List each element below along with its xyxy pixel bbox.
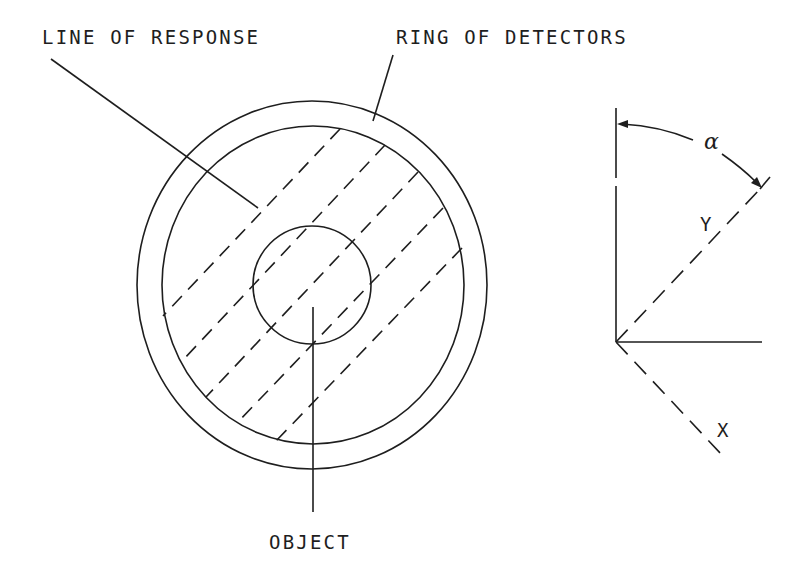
line-of-response-4 [237,208,443,423]
line-of-response-2 [183,145,385,360]
object-label: OBJECT [269,531,351,553]
ring-of-detectors-label: RING OF DETECTORS [396,26,628,48]
line-of-response-3 [206,172,418,397]
x-axis-dashed [616,342,722,455]
line-of-response-leader [51,59,258,208]
arrowhead-left-icon [617,120,628,128]
line-of-response-5 [276,248,462,441]
coordinate-axes: α Y X [616,108,770,455]
alpha-label: α [704,129,719,154]
angle-arc-upper [622,124,693,140]
y-axis-label: Y [700,213,712,235]
x-axis-label: X [717,419,729,441]
outer-detector-ring [137,101,487,469]
object-circle [253,226,371,344]
y-axis-dashed [616,189,760,342]
line-of-response-label: LINE OF RESPONSE [42,26,260,48]
angle-arc-lower [722,154,756,182]
ring-of-detectors-leader [373,55,393,121]
pet-scanner-diagram: LINE OF RESPONSE RING OF DETECTORS OBJEC… [0,0,805,574]
